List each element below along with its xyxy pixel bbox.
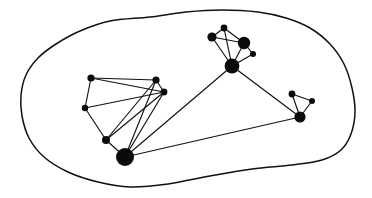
- graph-node: [102, 136, 110, 144]
- graph-node: [238, 37, 250, 49]
- graph-node: [289, 91, 296, 98]
- graph-node: [225, 59, 240, 74]
- graph-node: [87, 74, 94, 81]
- graph-node: [309, 98, 315, 104]
- graph-node: [207, 32, 216, 41]
- edge-layer: [85, 28, 312, 157]
- graph-edge: [85, 108, 106, 140]
- graph-node: [221, 25, 228, 32]
- graph-edge: [85, 78, 91, 108]
- graph-edge: [125, 80, 156, 157]
- graph-node: [152, 76, 159, 83]
- graph-node: [82, 105, 88, 111]
- graph-canvas: [0, 0, 372, 198]
- graph-edge: [85, 92, 164, 108]
- graph-node: [161, 89, 168, 96]
- graph-node: [294, 111, 305, 122]
- graph-node: [250, 51, 256, 57]
- graph-edge: [125, 92, 164, 157]
- graph-figure: [0, 0, 372, 198]
- graph-edge: [125, 117, 300, 157]
- graph-node: [116, 148, 134, 166]
- graph-edge: [106, 80, 156, 140]
